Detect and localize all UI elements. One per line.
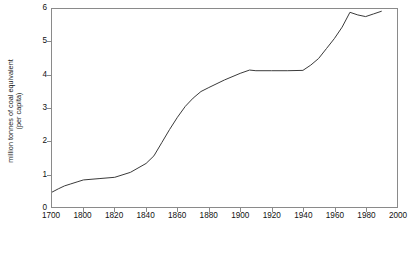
y-tick-label: 5	[7, 37, 47, 45]
y-tick-label: 1	[7, 171, 47, 179]
y-tick-label: 4	[7, 71, 47, 79]
x-tick-mark	[83, 208, 84, 212]
data-series-line	[52, 11, 381, 192]
data-line-svg	[52, 9, 397, 207]
x-tick-mark	[366, 208, 367, 212]
y-tick-label: 3	[7, 104, 47, 112]
x-tick-mark	[335, 208, 336, 212]
y-tick-label: 2	[7, 137, 47, 145]
x-tick-mark	[272, 208, 273, 212]
y-tick-label: 0	[7, 204, 47, 212]
x-tick-mark	[177, 208, 178, 212]
x-tick-mark	[114, 208, 115, 212]
x-tick-mark	[303, 208, 304, 212]
x-tick-mark	[209, 208, 210, 212]
x-tick-label: 2000	[378, 212, 413, 220]
plot-area	[51, 8, 398, 208]
x-tick-mark	[240, 208, 241, 212]
chart-figure: million tonnes of coal equivalent (per c…	[0, 0, 413, 254]
x-tick-mark	[146, 208, 147, 212]
y-tick-label: 6	[7, 4, 47, 12]
